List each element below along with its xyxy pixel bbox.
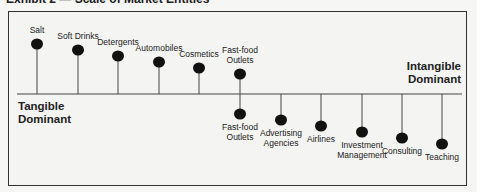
item-label-line: Agencies xyxy=(260,138,302,148)
scale-diagram xyxy=(0,0,477,192)
item-dot xyxy=(436,139,448,150)
item-label-line: Salt xyxy=(30,25,45,35)
item-label-line: Management xyxy=(337,150,387,160)
item-dot xyxy=(72,45,84,56)
item-label: Cosmetics xyxy=(179,49,219,59)
item-label-line: Fast-food xyxy=(222,45,258,55)
item-label: Salt xyxy=(30,25,45,35)
item-label-line: Cosmetics xyxy=(179,49,219,59)
item-label: AdvertisingAgencies xyxy=(260,128,302,148)
item-label: Consulting xyxy=(382,146,422,156)
item-label: Teaching xyxy=(425,152,459,162)
pole-line: Tangible xyxy=(18,100,71,113)
item-dot xyxy=(396,133,408,144)
pole-line: Intangible xyxy=(401,60,461,73)
item-dot xyxy=(31,39,43,50)
item-label: Automobiles xyxy=(136,43,183,53)
item-dot xyxy=(112,51,124,62)
item-label-line: Consulting xyxy=(382,146,422,156)
item-label-line: Investment xyxy=(337,140,387,150)
item-dot xyxy=(356,127,368,138)
item-label-line: Detergents xyxy=(97,37,139,47)
item-label-line: Teaching xyxy=(425,152,459,162)
item-label-line: Fast-food xyxy=(222,122,258,132)
item-dot xyxy=(153,57,165,68)
item-label-line: Airlines xyxy=(307,134,335,144)
item-label-line: Soft Drinks xyxy=(57,31,99,41)
item-dot xyxy=(234,109,246,120)
item-label: Detergents xyxy=(97,37,139,47)
item-label-line: Outlets xyxy=(222,55,258,65)
item-label: Soft Drinks xyxy=(57,31,99,41)
item-label-line: Automobiles xyxy=(136,43,183,53)
item-label: InvestmentManagement xyxy=(337,140,387,160)
item-label: Fast-foodOutlets xyxy=(222,122,258,142)
pole-line: Dominant xyxy=(18,113,71,126)
item-label: Fast-foodOutlets xyxy=(222,45,258,65)
pole-line: Dominant xyxy=(401,73,461,86)
item-dot xyxy=(234,69,246,80)
item-dot xyxy=(315,121,327,132)
item-dot xyxy=(275,115,287,126)
item-label-line: Outlets xyxy=(222,132,258,142)
item-dot xyxy=(193,63,205,74)
item-label-line: Advertising xyxy=(260,128,302,138)
tangible-dominant-label: Tangible Dominant xyxy=(18,100,71,126)
intangible-dominant-label: Intangible Dominant xyxy=(401,60,461,86)
item-label: Airlines xyxy=(307,134,335,144)
